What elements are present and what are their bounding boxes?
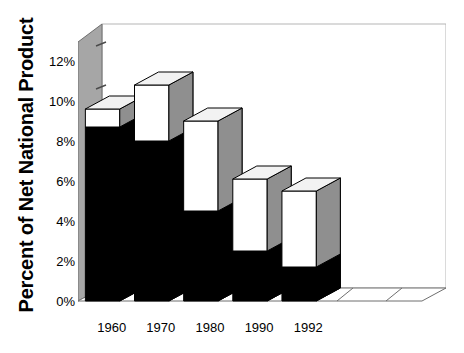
y-tick-label: 12% <box>31 55 75 68</box>
y-tick-label: 2% <box>31 255 75 268</box>
y-tick-label: 0% <box>31 295 75 308</box>
x-tick-label: 1992 <box>278 320 338 335</box>
y-tick-label: 8% <box>31 135 75 148</box>
floor-plane <box>78 288 446 301</box>
y-tick-label: 10% <box>31 95 75 108</box>
back-wall <box>102 24 446 288</box>
x-axis-tick-labels: 19601970198019901992 <box>78 320 446 342</box>
plot-area-3d <box>78 18 446 318</box>
y-tick-label: 4% <box>31 215 75 228</box>
chart-container: Percent of Net National Product 0%2%4%6%… <box>0 0 464 353</box>
y-axis-tick-labels: 0%2%4%6%8%10%12% <box>31 0 75 353</box>
y-tick-label: 6% <box>31 175 75 188</box>
plot-frame-svg <box>78 18 446 318</box>
